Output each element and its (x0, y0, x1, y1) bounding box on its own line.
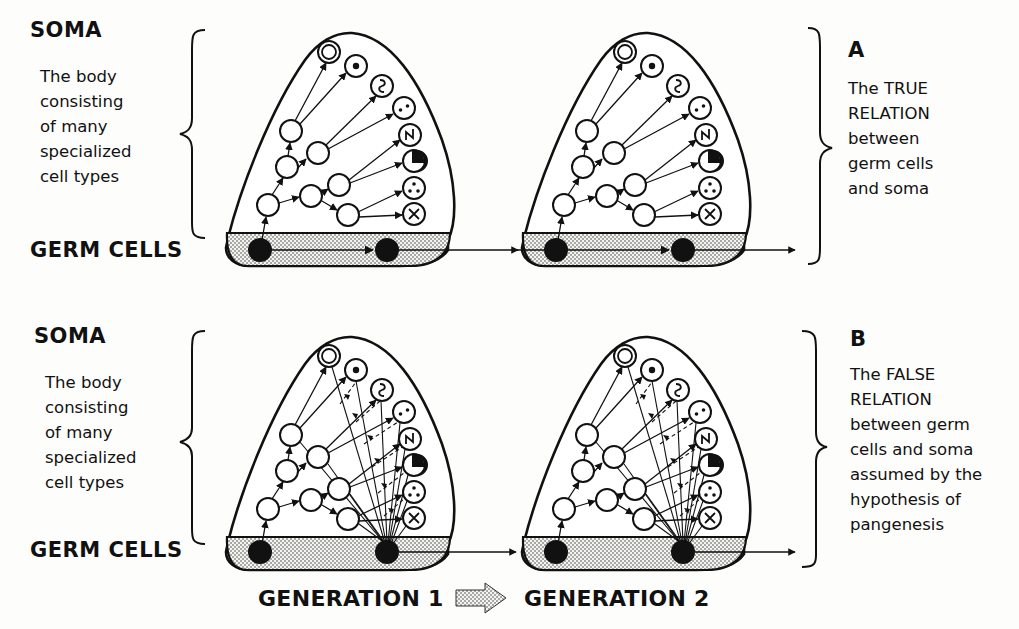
generation-arrow-icon (456, 583, 506, 613)
soma-body (226, 33, 454, 266)
panel-b-gen1 (226, 337, 454, 570)
germ-cell (671, 540, 695, 564)
brace-panel-b (802, 331, 827, 567)
germ-cell (248, 238, 272, 262)
diagram-canvas (0, 0, 1019, 629)
brace-soma-b (180, 331, 205, 544)
soma-body (522, 33, 750, 266)
soma-body (226, 337, 454, 570)
soma-body (522, 337, 750, 570)
panel-a-gen2 (516, 33, 750, 266)
panel-a-gen1 (226, 33, 454, 266)
germ-cell (375, 540, 399, 564)
brace-soma-a (180, 30, 205, 238)
panel-b-gen2 (522, 337, 750, 570)
germ-cell (544, 238, 568, 262)
germ-cell (248, 540, 272, 564)
brace-panel-a (808, 28, 832, 264)
germ-cell (544, 540, 568, 564)
